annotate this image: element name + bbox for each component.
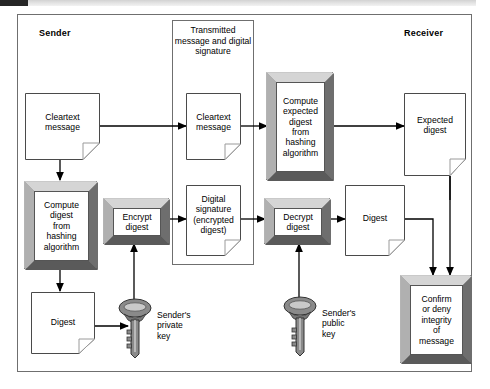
public-key-label: Sender's public key — [322, 308, 386, 339]
node-digest-sender: Digest — [31, 292, 95, 354]
node-encrypt-digest: Encrypt digest — [103, 198, 169, 244]
node-label: Cleartext message — [25, 112, 100, 133]
node-digital-signature: Digital signature (encrypted digest) — [186, 185, 241, 256]
node-confirm-deny-integrity: Confirm or deny integrity of message — [400, 275, 471, 363]
node-label: Confirm or deny integrity of message — [419, 294, 454, 346]
node-compute-digest-sender: Compute digest from hashing algorithm — [24, 181, 97, 269]
node-label: Expected digest — [404, 115, 466, 136]
node-label: Digest — [345, 213, 405, 223]
arrow-digest-receiver-to-confirm — [405, 219, 433, 275]
public-key-icon — [283, 294, 317, 356]
node-digest-receiver: Digest — [345, 185, 405, 256]
node-cleartext-message-sender: Cleartext message — [25, 93, 100, 160]
node-label: Digest — [31, 317, 95, 327]
node-label: Decrypt digest — [283, 212, 313, 233]
node-label: Cleartext message — [186, 112, 241, 133]
private-key-label: Sender's private key — [157, 310, 221, 341]
node-label: Compute digest from hashing algorithm — [44, 200, 79, 252]
node-decrypt-digest: Decrypt digest — [264, 198, 330, 244]
node-label: Digital signature (encrypted digest) — [186, 194, 241, 236]
node-label: Encrypt digest — [122, 212, 151, 233]
node-expected-digest: Expected digest — [404, 93, 466, 176]
node-cleartext-message-transmitted: Cleartext message — [186, 93, 241, 160]
private-key-icon — [118, 296, 152, 358]
diagram-canvas: Sender Receiver Transmitted message and … — [0, 0, 490, 389]
node-compute-expected-digest: Compute expected digest from hashing alg… — [266, 72, 333, 180]
node-label: Compute expected digest from hashing alg… — [283, 96, 318, 158]
